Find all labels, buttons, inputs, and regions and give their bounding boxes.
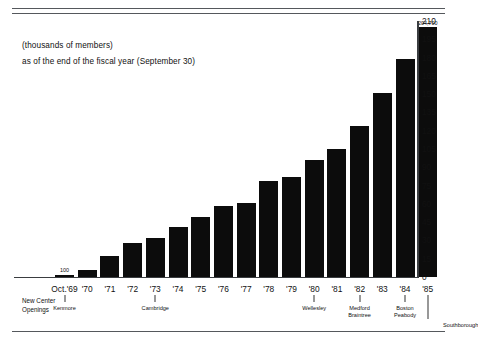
annotation-line: Cambridge: [142, 305, 169, 312]
annotation-line: Kenmore: [53, 305, 76, 312]
x-tick-82: '82: [354, 284, 365, 294]
bar-rect: [237, 203, 256, 277]
bottom-rule: [12, 331, 445, 332]
bar-rect: [259, 181, 278, 277]
new-center-openings-label: New Center Openings: [22, 297, 55, 314]
annotation-line: Southborough: [443, 322, 478, 329]
annotation-cambridge: Cambridge: [142, 305, 169, 312]
x-tick-73: '73: [150, 284, 161, 294]
annotation-line: Medford: [348, 305, 371, 312]
bar-rect: [305, 160, 324, 277]
y-tick-210: 210: [422, 16, 436, 26]
x-tick-70: '70: [82, 284, 93, 294]
x-tick-79: '79: [286, 284, 297, 294]
bar-rect: [100, 256, 119, 277]
annotation-wellesley: Wellesley: [302, 305, 326, 312]
x-tick-78: '78: [263, 284, 274, 294]
bar-rect: [191, 217, 210, 277]
annotation-leader-line: [155, 295, 156, 302]
y-tick-135: 135: [422, 107, 436, 117]
plot-area: 100204,700 21019518016515013512010590756…: [14, 18, 414, 280]
annotation-leader-line: [427, 295, 428, 319]
x-tick-81: '81: [331, 284, 342, 294]
annotation-kenmore: Kenmore: [53, 305, 76, 312]
y-tick-105: 105: [422, 144, 436, 154]
x-tick-77: '77: [241, 284, 252, 294]
y-tick-150: 150: [422, 89, 436, 99]
bar-rect: [169, 227, 188, 277]
bar-rect: [373, 93, 392, 277]
y-tick-165: 165: [422, 71, 436, 81]
y-tick-0: 0: [422, 272, 427, 282]
bar-rect: [146, 238, 165, 277]
annotation-line: Wellesley: [302, 305, 326, 312]
annotation-line: Peabody: [394, 312, 416, 319]
x-tick-74: '74: [173, 284, 184, 294]
annotation-line: Boston: [394, 305, 416, 312]
x-tick-84: '84: [400, 284, 411, 294]
y-tick-60: 60: [422, 199, 431, 209]
top-rule-inner: [12, 13, 445, 14]
bar-rect: [396, 59, 415, 277]
y-tick-120: 120: [422, 126, 436, 136]
annotation-leader-line: [314, 295, 315, 302]
y-tick-75: 75: [422, 181, 431, 191]
y-axis-line: [417, 21, 419, 278]
annotation-line: Braintree: [348, 312, 371, 319]
annotation-boston: BostonPeabody: [394, 305, 416, 319]
annotation-leader-line: [359, 295, 360, 302]
top-rule-outer: [12, 8, 445, 9]
annotation-southborough: Southborough: [443, 322, 478, 329]
x-tick-Oct69: Oct.'69: [51, 284, 77, 294]
annotation-leader-line: [405, 295, 406, 302]
bar-rect: [350, 126, 369, 277]
y-tick-180: 180: [422, 53, 436, 63]
bar-rect: [327, 149, 346, 277]
annotation-leader-line: [64, 295, 65, 302]
new-center-openings-line-1: New Center: [22, 297, 55, 306]
bar-rect: [78, 270, 97, 277]
x-tick-80: '80: [309, 284, 320, 294]
new-center-openings-line-2: Openings: [22, 306, 55, 315]
y-tick-15: 15: [422, 254, 431, 264]
annotation-medford: MedfordBraintree: [348, 305, 371, 319]
bar-value-label: 100: [60, 267, 69, 273]
y-tick-45: 45: [422, 217, 431, 227]
x-tick-71: '71: [104, 284, 115, 294]
x-tick-75: '75: [195, 284, 206, 294]
x-tick-76: '76: [218, 284, 229, 294]
bar-rect: [282, 177, 301, 277]
y-tick-195: 195: [422, 34, 436, 44]
x-axis-line: [14, 277, 418, 278]
y-tick-90: 90: [422, 162, 431, 172]
x-tick-83: '83: [377, 284, 388, 294]
bar-rect: [214, 206, 233, 277]
bar-series: 100204,700: [14, 18, 414, 277]
bar-rect: [123, 243, 142, 277]
x-tick-85: '85: [422, 284, 433, 294]
y-tick-30: 30: [422, 235, 431, 245]
x-tick-72: '72: [127, 284, 138, 294]
